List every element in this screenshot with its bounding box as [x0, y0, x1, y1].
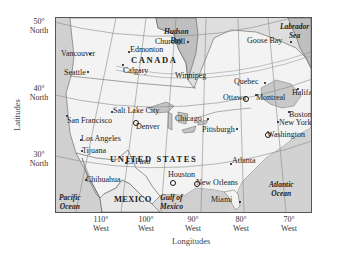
city-label-montreal: Montreal	[256, 93, 285, 102]
longitude-degree: 90°	[178, 215, 208, 224]
longitude-degree: 110°	[86, 215, 116, 224]
city-label-los-angeles: Los Angeles	[81, 134, 121, 143]
longitude-label-110: 110° West	[86, 215, 116, 233]
city-label-winnipeg: Winnipeg	[175, 71, 206, 80]
latitudes-axis-title: Latitudes	[12, 90, 22, 140]
city-marker-pittsburgh	[236, 128, 238, 130]
longitude-direction: West	[178, 224, 208, 233]
latitude-direction: North	[24, 159, 54, 168]
city-marker-seattle	[87, 71, 89, 73]
city-label-goose-bay: Goose Bay	[247, 36, 282, 45]
city-label-chihuahua: Chihuahua	[86, 175, 121, 184]
latitude-label-50: 50° North	[24, 17, 54, 35]
latitude-direction: North	[24, 26, 54, 35]
city-label-edmonton: Edmonton	[130, 45, 163, 54]
city-label-vancouver: Vancouver	[61, 49, 95, 58]
city-marker-quebec	[264, 82, 266, 84]
city-label-new-orleans: New Orleans	[196, 178, 238, 187]
city-label-atlanta: Atlanta	[232, 156, 256, 165]
water-label-labrador-sea: Labrador Sea	[280, 23, 309, 40]
latitude-degree: 50°	[24, 17, 54, 26]
city-label-tijuana: Tijuana	[82, 146, 106, 155]
water-label-pacific-ocean: Pacific Ocean	[59, 194, 81, 211]
city-label-quebec: Quebec	[234, 77, 258, 86]
city-label-denver: Denver	[136, 122, 160, 131]
country-label-united-states: UNITED STATES	[110, 155, 197, 164]
country-label-mexico: MEXICO	[114, 195, 152, 204]
city-marker-houston	[170, 180, 176, 186]
longitude-degree: 70°	[274, 215, 304, 224]
country-label-canada: CANADA	[131, 56, 177, 65]
longitude-degree: 100°	[131, 215, 161, 224]
longitude-degree: 80°	[226, 215, 256, 224]
longitude-direction: West	[274, 224, 304, 233]
water-label-atlantic-ocean: Atlantic Ocean	[269, 181, 294, 198]
city-label-halifax: Halifax	[292, 88, 312, 97]
city-label-miami: Miami	[211, 195, 232, 204]
longitude-label-100: 100° West	[131, 215, 161, 233]
city-marker-churchill	[187, 41, 189, 43]
city-label-washington: Washington	[267, 130, 305, 139]
city-label-el-paso: El Paso	[126, 157, 150, 166]
longitude-direction: West	[86, 224, 116, 233]
longitude-label-80: 80° West	[226, 215, 256, 233]
latitude-label-30: 30° North	[24, 150, 54, 168]
longitude-label-90: 90° West	[178, 215, 208, 233]
water-label-gulf-of-mexico: Gulf of Mexico	[160, 194, 183, 211]
city-marker-miami	[239, 201, 241, 203]
longitude-direction: West	[131, 224, 161, 233]
longitudes-axis-title: Longitudes	[172, 236, 210, 246]
city-label-calgary: Calgary	[123, 66, 148, 75]
longitude-label-70: 70° West	[274, 215, 304, 233]
city-label-houston: Houston	[168, 170, 195, 179]
map-frame: CANADA UNITED STATES MEXICO Hudson Bay L…	[55, 17, 312, 213]
water-label-line: Mexico	[160, 203, 183, 212]
water-label-line: Ocean	[269, 190, 294, 199]
latitude-direction: North	[24, 93, 54, 102]
latitude-degree: 40°	[24, 84, 54, 93]
city-label-chicago: Chicago	[175, 114, 202, 123]
city-label-ottawa: Ottawa	[223, 93, 246, 102]
city-label-seattle: Seattle	[64, 68, 86, 77]
city-marker-goose-bay	[290, 41, 292, 43]
longitude-direction: West	[226, 224, 256, 233]
city-label-salt-lake-city: Salt Lake City	[113, 106, 159, 115]
latitude-degree: 30°	[24, 150, 54, 159]
city-label-pittsburgh: Pittsburgh	[202, 125, 235, 134]
water-label-line: Sea	[280, 32, 309, 41]
city-label-new-york: New York	[279, 118, 311, 127]
latitude-label-40: 40° North	[24, 84, 54, 102]
city-marker-chicago	[207, 118, 209, 120]
city-label-san-francisco: San Francisco	[67, 116, 112, 125]
water-label-line: Ocean	[59, 203, 81, 212]
